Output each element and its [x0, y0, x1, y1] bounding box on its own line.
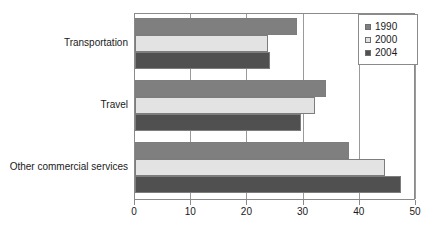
legend: 199020002004: [358, 14, 418, 65]
legend-swatch-icon: [365, 24, 371, 30]
x-axis-tick: [134, 200, 135, 205]
x-axis-tick-label: 10: [175, 206, 205, 217]
x-axis-tick-label: 20: [231, 206, 261, 217]
legend-item[interactable]: 1990: [365, 20, 413, 33]
x-axis-tick-label: 40: [344, 206, 374, 217]
legend-swatch-icon: [365, 37, 371, 43]
legend-item[interactable]: 2004: [365, 46, 413, 59]
bar: [135, 97, 315, 114]
bar-chart: TransportationTravelOther commercial ser…: [0, 0, 432, 227]
x-axis-tick-label: 50: [400, 206, 430, 217]
x-axis-tick: [246, 200, 247, 205]
bar: [135, 114, 301, 131]
category-label: Travel: [0, 99, 128, 110]
legend-swatch-icon: [365, 50, 371, 56]
x-axis-tick: [190, 200, 191, 205]
category-label: Other commercial services: [0, 161, 128, 172]
x-axis-tick-label: 30: [288, 206, 318, 217]
legend-item[interactable]: 2000: [365, 33, 413, 46]
legend-label: 2000: [375, 33, 397, 46]
x-axis-tick: [415, 200, 416, 205]
x-axis-tick: [359, 200, 360, 205]
x-axis-tick: [303, 200, 304, 205]
bar: [135, 176, 401, 193]
x-axis-tick-label: 0: [119, 206, 149, 217]
category-label: Transportation: [0, 37, 128, 48]
bar: [135, 35, 268, 52]
bar: [135, 80, 326, 97]
bar: [135, 18, 297, 35]
bar: [135, 52, 270, 69]
legend-label: 1990: [375, 20, 397, 33]
bar: [135, 142, 349, 159]
legend-label: 2004: [375, 46, 397, 59]
bar: [135, 159, 385, 176]
chart-title: [0, 0, 432, 4]
